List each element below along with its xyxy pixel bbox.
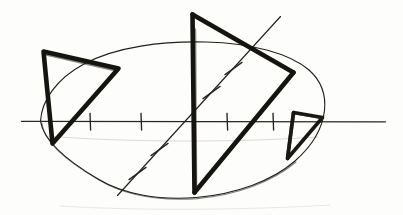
axis-tick-3 — [227, 113, 228, 130]
diagonal-axis — [118, 17, 281, 196]
middle-triangle — [193, 15, 294, 193]
axis-tick-2 — [141, 113, 142, 130]
figure-canvas — [0, 0, 403, 215]
axis-tick-1 — [90, 113, 91, 130]
sketch-drawing — [0, 0, 403, 215]
diagonal-tick-3 — [203, 86, 220, 98]
axis-tick-4 — [273, 113, 274, 130]
diagonal-tick-4 — [225, 62, 242, 74]
diagonal-tick-2 — [151, 143, 168, 155]
diagonal-tick-1 — [129, 167, 146, 179]
